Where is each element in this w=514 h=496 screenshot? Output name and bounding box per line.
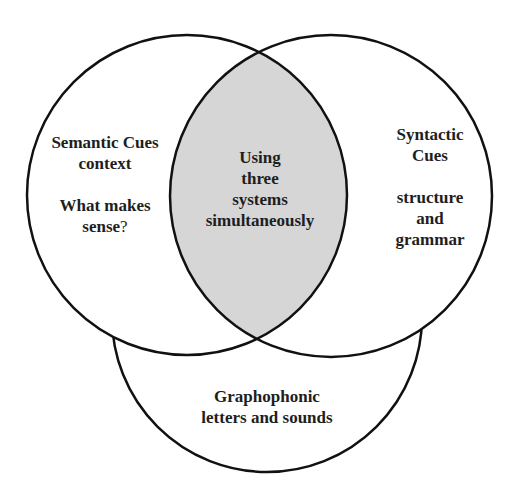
semantic-note-line2: sense? (40, 216, 170, 237)
syntactic-title-line2: Cues (380, 145, 480, 166)
syntactic-title-line1: Syntactic (380, 124, 480, 145)
semantic-subtitle: context (40, 153, 170, 174)
semantic-title: Semantic Cues (40, 132, 170, 153)
semantic-note-line1: What makes (40, 195, 170, 216)
intersection-line1: Using (185, 147, 335, 168)
syntactic-note-line1: structure (380, 187, 480, 208)
syntactic-label: Syntactic Cues structure and grammar (380, 124, 480, 250)
semantic-label: Semantic Cues context What makes sense? (40, 132, 170, 237)
graphophonic-title: Graphophonic (177, 386, 357, 407)
intersection-line3: systems (185, 189, 335, 210)
syntactic-note-line2: and (380, 208, 480, 229)
intersection-line4: simultaneously (185, 210, 335, 231)
syntactic-note-line3: grammar (380, 229, 480, 250)
graphophonic-subtitle: letters and sounds (177, 407, 357, 428)
intersection-line2: three (185, 168, 335, 189)
intersection-label: Using three systems simultaneously (185, 147, 335, 231)
graphophonic-label: Graphophonic letters and sounds (177, 386, 357, 428)
